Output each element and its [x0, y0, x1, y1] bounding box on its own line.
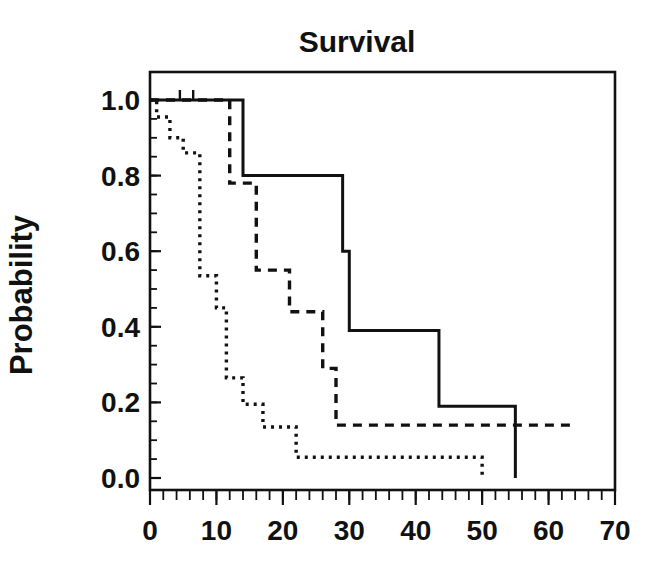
y-tick-label: 1.0: [101, 85, 140, 116]
x-tick-label: 70: [599, 515, 630, 546]
y-tick-label: 0.2: [101, 387, 140, 418]
survival-curve-dashed: [150, 100, 575, 425]
y-tick-label: 0.0: [101, 463, 140, 494]
x-tick-label: 40: [400, 515, 431, 546]
x-tick-label: 0: [142, 515, 158, 546]
x-axis-major-ticks: [150, 490, 615, 505]
y-axis-minor-ticks: [150, 100, 157, 478]
survival-curve-solid: [150, 100, 515, 478]
x-axis-tick-labels: 010203040506070: [142, 515, 630, 546]
y-axis-label: Probability: [4, 214, 39, 375]
plot-frame: [150, 72, 615, 490]
y-tick-label: 0.4: [101, 312, 140, 343]
x-tick-label: 30: [334, 515, 365, 546]
x-tick-label: 50: [467, 515, 498, 546]
chart-title: Survival: [299, 25, 416, 58]
x-axis-minor-ticks: [150, 490, 615, 500]
x-tick-label: 10: [201, 515, 232, 546]
x-tick-label: 20: [267, 515, 298, 546]
y-tick-label: 0.8: [101, 161, 140, 192]
survival-chart-figure: Survival Probability 0.00.20.40.60.81.0 …: [0, 0, 663, 584]
chart-canvas: Survival Probability 0.00.20.40.60.81.0 …: [0, 0, 663, 584]
survival-curve-dotted: [150, 100, 482, 478]
x-tick-label: 60: [533, 515, 564, 546]
y-tick-label: 0.6: [101, 236, 140, 267]
y-axis-tick-labels: 0.00.20.40.60.81.0: [101, 85, 140, 494]
